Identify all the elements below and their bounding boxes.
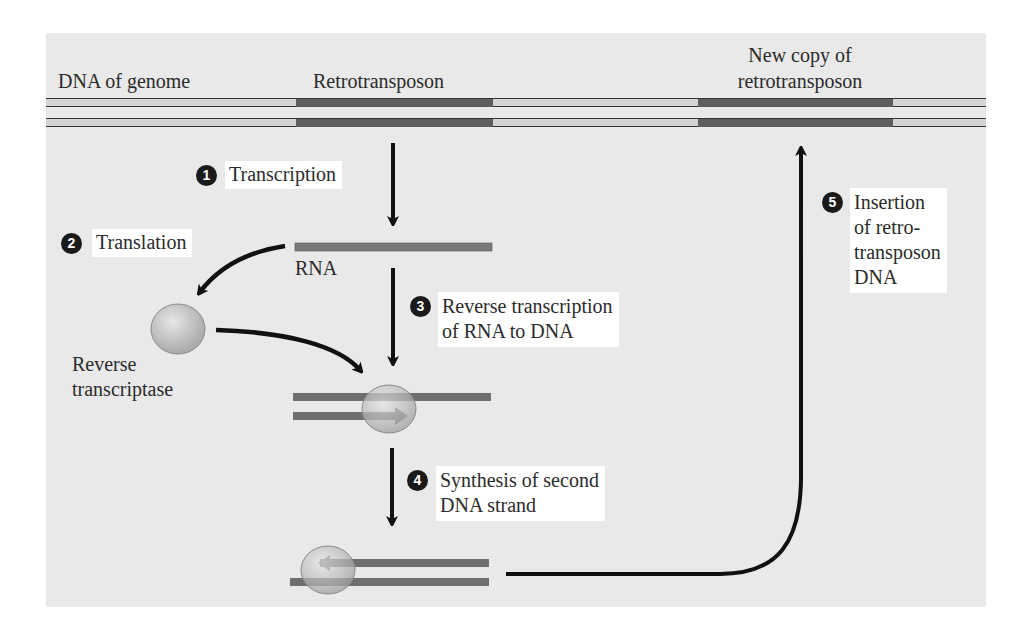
step-1-label: Transcription <box>225 161 342 189</box>
new-copy-label-line1: New copy of <box>700 44 900 67</box>
rna-strand <box>295 243 492 251</box>
step-4-badge: 4 <box>407 470 428 491</box>
step-5-label-line4: DNA <box>854 265 941 290</box>
step-4-label-line2: DNA strand <box>440 493 599 518</box>
step-5-badge: 5 <box>822 192 843 213</box>
step-3-label: Reverse transcription of RNA to DNA <box>438 292 619 347</box>
reverse-transcriptase-enzyme <box>151 304 205 354</box>
step-5-label-line1: Insertion <box>854 190 941 215</box>
rna-label: RNA <box>295 257 337 280</box>
step-5-label-line3: transposon <box>854 240 941 265</box>
retrotransposon-label: Retrotransposon <box>313 70 444 93</box>
step-4-label: Synthesis of second DNA strand <box>436 466 605 521</box>
step-3-label-line1: Reverse transcription <box>442 294 613 319</box>
step-2-label: Translation <box>92 229 192 257</box>
step-5-label-line2: of retro- <box>854 215 941 240</box>
new-copy-label-line2: retrotransposon <box>700 70 900 93</box>
step-1-badge: 1 <box>196 165 217 186</box>
step-5-label: Insertion of retro- transposon DNA <box>850 188 947 293</box>
step-3-badge: 3 <box>410 296 431 317</box>
reverse-transcriptase-label-line2: transcriptase <box>72 378 173 401</box>
step-2-badge: 2 <box>61 233 82 254</box>
step-3-label-line2: of RNA to DNA <box>442 319 613 344</box>
step-4-label-line1: Synthesis of second <box>440 468 599 493</box>
dna-of-genome-label: DNA of genome <box>58 70 190 93</box>
reverse-transcriptase-label-line1: Reverse <box>72 353 136 376</box>
